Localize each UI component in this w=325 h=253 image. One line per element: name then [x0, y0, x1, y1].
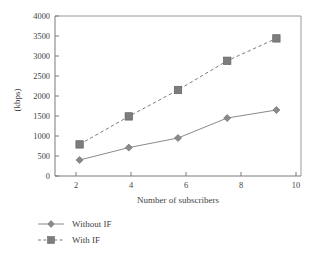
x-tick-label-10: 10: [292, 181, 300, 190]
line-chart: 0 500 1000 1500 2000 2500 3000 3500 4000…: [0, 0, 325, 253]
legend-marker-square-icon: [48, 237, 55, 244]
y-tick-label-2000: 2000: [33, 92, 50, 101]
data-point-square[interactable]: [174, 86, 181, 93]
y-tick-label-1000: 1000: [33, 132, 50, 141]
x-tick-label-8: 8: [239, 181, 243, 190]
y-tick-label-0: 0: [46, 172, 50, 181]
y-tick-label-1500: 1500: [33, 112, 50, 121]
x-axis-title: Number of subscribers: [137, 195, 219, 205]
y-tick-label-3500: 3500: [33, 32, 50, 41]
data-point-square[interactable]: [76, 141, 83, 148]
y-tick-label-4000: 4000: [33, 12, 50, 21]
y-axis-title: (kbps): [12, 89, 22, 112]
x-tick-label-2: 2: [74, 181, 78, 190]
x-tick-label-6: 6: [184, 181, 188, 190]
chart-figure: 0 500 1000 1500 2000 2500 3000 3500 4000…: [0, 0, 325, 253]
y-tick-label-2500: 2500: [33, 72, 50, 81]
data-point-square[interactable]: [273, 35, 280, 42]
legend-label-with-if: With IF: [72, 235, 100, 245]
y-tick-label-3000: 3000: [33, 52, 50, 61]
data-point-square[interactable]: [125, 113, 132, 120]
y-tick-label-500: 500: [37, 152, 50, 161]
data-point-square[interactable]: [224, 57, 231, 64]
legend-label-without-if: Without IF: [72, 219, 111, 229]
